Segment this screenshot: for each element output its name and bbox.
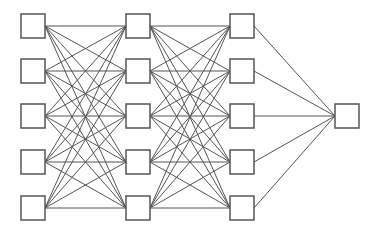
connections [45, 26, 335, 208]
input-node-3 [21, 104, 45, 128]
connection-line [254, 71, 335, 116]
hidden1-node-2 [126, 59, 150, 83]
input-node-4 [21, 150, 45, 174]
connection-line [254, 26, 335, 116]
hidden2-node-1 [230, 14, 254, 38]
output-node-1 [335, 104, 359, 128]
connection-line [254, 116, 335, 208]
hidden1-node-3 [126, 104, 150, 128]
connection-line [254, 116, 335, 162]
input-node-1 [21, 14, 45, 38]
input-node-5 [21, 196, 45, 220]
hidden1-node-5 [126, 196, 150, 220]
hidden1-node-1 [126, 14, 150, 38]
neural-network-diagram [0, 0, 379, 234]
hidden2-node-3 [230, 104, 254, 128]
input-node-2 [21, 59, 45, 83]
hidden2-node-2 [230, 59, 254, 83]
hidden2-node-5 [230, 196, 254, 220]
hidden2-node-4 [230, 150, 254, 174]
hidden1-node-4 [126, 150, 150, 174]
